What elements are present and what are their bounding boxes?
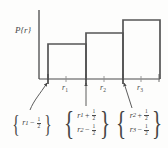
expr-operator: − (29, 119, 37, 127)
fraction-denominator: 2 (144, 115, 149, 122)
brace-1-body: r1 − 1 2 (22, 117, 42, 130)
expr-row: r2 − 1 2 (77, 124, 97, 137)
expr-row: r3 − 1 2 (130, 124, 150, 137)
brace-right-icon: } (44, 111, 51, 136)
figure-page: P{r} r1 r2 r3 { r1 (0, 0, 168, 148)
expr-row: r1 + 1 2 (77, 109, 97, 122)
brace-right-icon: } (100, 106, 110, 140)
bar-r3 (123, 20, 160, 79)
expr-fraction: 1 2 (144, 109, 149, 122)
expr-fraction: 1 2 (92, 109, 97, 122)
expr-row: r1 − 1 2 (22, 117, 42, 130)
brace-right-icon: } (152, 106, 162, 140)
expr-fraction: 1 2 (92, 124, 97, 137)
tick-label-r3: r3 (137, 83, 143, 92)
bar-r2 (86, 33, 123, 79)
interval-brace-row: { r1 − 1 2 } { r1 + (0, 100, 168, 148)
histogram-figure: P{r} r1 r2 r3 (0, 0, 168, 100)
expr-fraction: 1 2 (37, 117, 42, 130)
interval-brace-3: { r2 + 1 2 r3 − 1 2 (113, 103, 166, 143)
interval-brace-2: { r1 + 1 2 r2 − 1 2 (62, 103, 112, 143)
brace-left-icon: { (116, 106, 126, 140)
brace-2-body: r1 + 1 2 r2 − 1 2 (77, 109, 97, 136)
fraction-denominator: 2 (37, 123, 42, 130)
fraction-denominator: 2 (144, 130, 149, 137)
expr-operator: + (136, 112, 144, 120)
expr-fraction: 1 2 (144, 124, 149, 137)
brace-left-icon: { (64, 106, 74, 140)
fraction-denominator: 2 (92, 130, 97, 137)
expr-row: r2 + 1 2 (130, 109, 150, 122)
tick-label-r3-sub: 3 (140, 87, 143, 93)
expr-operator: + (84, 112, 92, 120)
interval-brace-1: { r1 − 1 2 } (4, 108, 60, 138)
brace-left-icon: { (12, 111, 19, 136)
bar-r1 (48, 44, 86, 79)
expr-operator: − (136, 126, 144, 134)
tick-label-r2: r2 (100, 83, 106, 92)
tick-label-r1: r1 (62, 83, 68, 92)
tick-label-r1-sub: 1 (65, 87, 68, 93)
expr-operator: − (84, 126, 92, 134)
brace-3-body: r2 + 1 2 r3 − 1 2 (130, 109, 150, 136)
fraction-denominator: 2 (92, 115, 97, 122)
y-axis-label: P{r} (15, 25, 31, 35)
tick-label-r2-sub: 2 (103, 87, 106, 93)
